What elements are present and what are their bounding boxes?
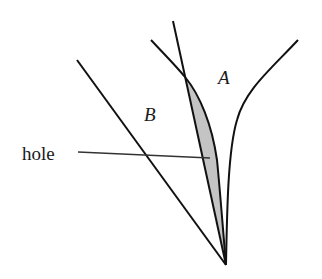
- curve-a-right: [226, 40, 298, 265]
- label-region-a: A: [218, 68, 230, 87]
- label-region-b: B: [144, 105, 156, 124]
- label-hole: hole: [22, 144, 55, 163]
- diagram-svg: [0, 0, 322, 279]
- diagram-canvas: A B hole: [0, 0, 322, 279]
